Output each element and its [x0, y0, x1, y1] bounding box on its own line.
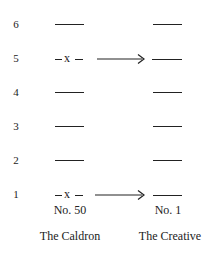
- left-line-4: [55, 92, 84, 93]
- right-line-5: [152, 59, 182, 60]
- arrow-icon: [95, 190, 147, 200]
- x-mark-icon: x: [64, 188, 70, 200]
- left-line-2: [55, 160, 84, 161]
- right-hexagram-name: The Creative: [131, 229, 209, 243]
- row-number-5: 5: [11, 52, 21, 64]
- row-number-4: 4: [11, 86, 21, 98]
- right-line-2: [153, 160, 182, 161]
- x-mark-icon: x: [64, 52, 70, 64]
- right-hexagram-number: No. 1: [143, 203, 193, 217]
- left-line-1-seg-a: [55, 195, 62, 196]
- row-number-3: 3: [11, 120, 21, 132]
- right-line-3: [153, 126, 182, 127]
- right-line-6: [153, 24, 182, 25]
- left-line-1-seg-b: [75, 195, 83, 196]
- arrow-icon: [97, 54, 147, 64]
- right-line-1: [153, 195, 182, 196]
- left-line-3: [55, 126, 84, 127]
- left-hexagram-name: The Caldron: [35, 229, 105, 243]
- row-number-1: 1: [11, 188, 21, 200]
- row-number-6: 6: [11, 18, 21, 30]
- left-hexagram-number: No. 50: [45, 203, 95, 217]
- left-line-6: [55, 24, 84, 25]
- right-line-4: [153, 92, 182, 93]
- row-number-2: 2: [11, 154, 21, 166]
- left-line-5-seg-b: [75, 59, 83, 60]
- left-line-5-seg-a: [55, 59, 62, 60]
